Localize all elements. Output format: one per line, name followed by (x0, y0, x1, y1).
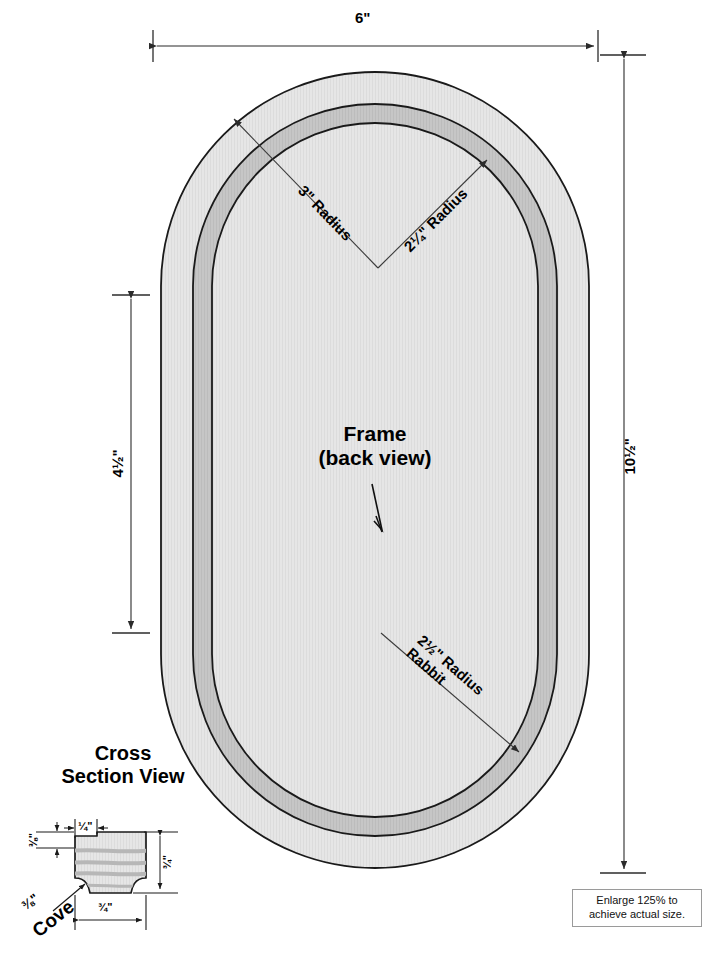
label-overall-height: 10½" (622, 438, 639, 474)
label-stock-thickness: ¾" (161, 855, 173, 869)
label-rabbet-width: ¼" (78, 820, 92, 832)
cross-section-title-line2: Section View (38, 765, 208, 788)
enlarge-note: Enlarge 125% to achieve actual size. (572, 889, 702, 927)
center-label-line2: (back view) (275, 446, 475, 470)
label-overall-width: 6" (355, 10, 370, 27)
dimension-rabbet-depth (36, 822, 74, 858)
label-rabbet-depth: ⅜" (27, 833, 39, 847)
oval-frame-body (161, 72, 589, 868)
center-label: Frame (back view) (275, 422, 475, 470)
label-stock-width: ¾" (98, 901, 112, 913)
cross-section-title-line1: Cross (38, 742, 208, 765)
dimension-overall-width (153, 30, 598, 62)
label-inner-height: 4½" (110, 449, 127, 477)
center-label-line1: Frame (275, 422, 475, 446)
cross-section-title: Cross Section View (38, 742, 208, 788)
